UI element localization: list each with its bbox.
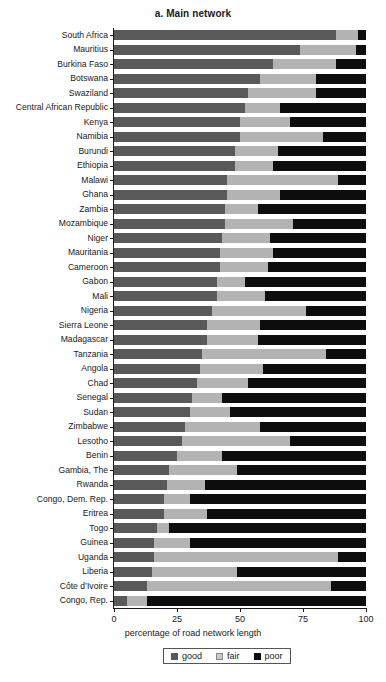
bar-row[interactable]: Kenya <box>114 115 366 130</box>
bar-segment-poor <box>190 494 366 504</box>
bar-row[interactable]: Sierra Leone <box>114 318 366 333</box>
stacked-bar[interactable] <box>114 30 366 40</box>
bar-segment-good <box>114 306 212 316</box>
bar-row[interactable]: South Africa <box>114 28 366 43</box>
bar-row[interactable]: Mali <box>114 289 366 304</box>
stacked-bar[interactable] <box>114 364 366 374</box>
bar-row[interactable]: Niger <box>114 231 366 246</box>
bar-row[interactable]: Malawi <box>114 173 366 188</box>
stacked-bar[interactable] <box>114 436 366 446</box>
bar-row[interactable]: Cameroon <box>114 260 366 275</box>
bar-row[interactable]: Burundi <box>114 144 366 159</box>
stacked-bar[interactable] <box>114 219 366 229</box>
stacked-bar[interactable] <box>114 335 366 345</box>
stacked-bar[interactable] <box>114 393 366 403</box>
legend-item-poor[interactable]: poor <box>254 651 283 661</box>
stacked-bar[interactable] <box>114 451 366 461</box>
bar-row[interactable]: Mauritius <box>114 43 366 58</box>
stacked-bar[interactable] <box>114 306 366 316</box>
legend-item-good[interactable]: good <box>171 651 202 661</box>
bar-row[interactable]: Liberia <box>114 565 366 580</box>
stacked-bar[interactable] <box>114 146 366 156</box>
bar-row[interactable]: Gabon <box>114 275 366 290</box>
stacked-bar[interactable] <box>114 552 366 562</box>
bar-row[interactable]: Mauritania <box>114 246 366 261</box>
bar-segment-good <box>114 581 147 591</box>
bar-row[interactable]: Ethiopia <box>114 159 366 174</box>
stacked-bar[interactable] <box>114 378 366 388</box>
bar-row[interactable]: Burkina Faso <box>114 57 366 72</box>
stacked-bar[interactable] <box>114 248 366 258</box>
stacked-bar[interactable] <box>114 291 366 301</box>
bar-row[interactable]: Botswana <box>114 72 366 87</box>
bar-row[interactable]: Madagascar <box>114 333 366 348</box>
stacked-bar[interactable] <box>114 277 366 287</box>
bar-row[interactable]: Namibia <box>114 130 366 145</box>
bar-row[interactable]: Sudan <box>114 405 366 420</box>
stacked-bar[interactable] <box>114 117 366 127</box>
stacked-bar[interactable] <box>114 132 366 142</box>
stacked-bar[interactable] <box>114 509 366 519</box>
bar-segment-poor <box>207 509 366 519</box>
stacked-bar[interactable] <box>114 233 366 243</box>
y-axis-label: Uganda <box>0 552 108 562</box>
stacked-bar[interactable] <box>114 407 366 417</box>
bar-row[interactable]: Guinea <box>114 536 366 551</box>
stacked-bar[interactable] <box>114 494 366 504</box>
bar-row[interactable]: Congo, Dem. Rep. <box>114 492 366 507</box>
bar-row[interactable]: Angola <box>114 362 366 377</box>
stacked-bar[interactable] <box>114 74 366 84</box>
stacked-bar[interactable] <box>114 190 366 200</box>
stacked-bar[interactable] <box>114 465 366 475</box>
bar-segment-poor <box>290 117 366 127</box>
stacked-bar[interactable] <box>114 422 366 432</box>
bar-row[interactable]: Nigeria <box>114 304 366 319</box>
bar-row[interactable]: Rwanda <box>114 478 366 493</box>
x-axis-tick-label: 75 <box>288 614 318 624</box>
stacked-bar[interactable] <box>114 581 366 591</box>
bar-segment-good <box>114 451 177 461</box>
stacked-bar[interactable] <box>114 175 366 185</box>
bar-row[interactable]: Zambia <box>114 202 366 217</box>
stacked-bar[interactable] <box>114 538 366 548</box>
bar-segment-poor <box>273 248 366 258</box>
bar-row[interactable]: Côte d’Ivoire <box>114 579 366 594</box>
stacked-bar[interactable] <box>114 204 366 214</box>
bar-segment-fair <box>190 407 230 417</box>
stacked-bar[interactable] <box>114 88 366 98</box>
stacked-bar[interactable] <box>114 45 366 55</box>
page-title: a. Main network <box>0 8 386 19</box>
stacked-bar[interactable] <box>114 480 366 490</box>
bar-row[interactable]: Togo <box>114 521 366 536</box>
y-axis-label: Mauritius <box>0 44 108 54</box>
bar-row[interactable]: Senegal <box>114 391 366 406</box>
stacked-bar[interactable] <box>114 320 366 330</box>
stacked-bar[interactable] <box>114 161 366 171</box>
bar-row[interactable]: Central African Republic <box>114 101 366 116</box>
bar-segment-good <box>114 567 152 577</box>
bar-row[interactable]: Zimbabwe <box>114 420 366 435</box>
bar-row[interactable]: Tanzania <box>114 347 366 362</box>
stacked-bar[interactable] <box>114 262 366 272</box>
stacked-bar[interactable] <box>114 523 366 533</box>
y-axis-label: Botswana <box>0 73 108 83</box>
stacked-bar[interactable] <box>114 103 366 113</box>
bar-row[interactable]: Lesotho <box>114 434 366 449</box>
bar-row[interactable]: Congo, Rep. <box>114 594 366 609</box>
stacked-bar[interactable] <box>114 596 366 606</box>
bar-row[interactable]: Uganda <box>114 550 366 565</box>
bar-row[interactable]: Gambia, The <box>114 463 366 478</box>
bar-row[interactable]: Benin <box>114 449 366 464</box>
y-axis-label: Cameroon <box>0 262 108 272</box>
bar-row[interactable]: Eritrea <box>114 507 366 522</box>
bar-segment-poor <box>268 262 366 272</box>
bar-row[interactable]: Swaziland <box>114 86 366 101</box>
stacked-bar[interactable] <box>114 59 366 69</box>
legend-item-fair[interactable]: fair <box>216 651 240 661</box>
bar-row[interactable]: Chad <box>114 376 366 391</box>
stacked-bar[interactable] <box>114 567 366 577</box>
bar-row[interactable]: Mozambique <box>114 217 366 232</box>
stacked-bar[interactable] <box>114 349 366 359</box>
bar-segment-good <box>114 465 169 475</box>
bar-row[interactable]: Ghana <box>114 188 366 203</box>
